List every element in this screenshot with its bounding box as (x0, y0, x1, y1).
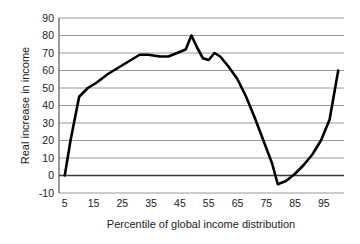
y-axis-tick-label: 50 (42, 82, 54, 94)
x-axis-tick-label: 95 (318, 197, 330, 209)
x-axis-tick-label: 45 (174, 197, 186, 209)
y-axis-tick-label: 90 (42, 12, 54, 24)
y-axis-title: Real increase in income (19, 47, 31, 164)
x-axis-tick-label: 15 (88, 197, 100, 209)
y-axis-tick-label: 70 (42, 47, 54, 59)
y-axis-tick-label: 20 (42, 134, 54, 146)
line-chart: 9080706050403020100-10 51525354555657585… (0, 0, 360, 244)
x-axis-tick-label: 25 (116, 197, 128, 209)
x-axis-tick-label: 65 (232, 197, 244, 209)
x-axis-tick-label: 85 (289, 197, 301, 209)
y-axis-tick-label: 60 (42, 64, 54, 76)
y-axis-tick-label: 80 (42, 29, 54, 41)
x-axis-tick-label: 75 (260, 197, 272, 209)
x-axis-title: Percentile of global income distribution (107, 218, 295, 230)
x-axis-tick-label: 35 (145, 197, 157, 209)
y-axis-tick-label: 30 (42, 117, 54, 129)
chart-container: 9080706050403020100-10 51525354555657585… (0, 0, 360, 244)
y-axis-tick-label: -10 (39, 187, 54, 199)
x-axis-tick-label: 5 (62, 197, 68, 209)
y-axis-tick-label: 40 (42, 99, 54, 111)
y-axis-tick-label: 0 (48, 169, 54, 181)
x-axis-tick-label: 55 (203, 197, 215, 209)
y-axis-tick-label: 10 (42, 152, 54, 164)
